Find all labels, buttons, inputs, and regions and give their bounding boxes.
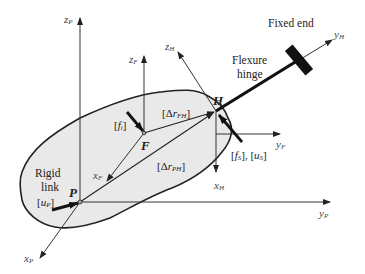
xF-label: xF bbox=[93, 170, 102, 182]
zP-label: zP bbox=[64, 14, 73, 26]
fixed-end-label: Fixed end bbox=[268, 18, 314, 30]
force-fi-label: [fi] bbox=[114, 120, 126, 132]
xH-label: xH bbox=[214, 180, 224, 192]
point-P-marker bbox=[78, 200, 82, 204]
rigid-label-line2: link bbox=[41, 182, 59, 194]
fixed-end-block bbox=[285, 45, 313, 76]
zF-label: zF bbox=[129, 54, 138, 66]
flexure-label-line1: Flexure bbox=[232, 55, 267, 67]
delta-r-PH-label: [ΔrPH] bbox=[157, 161, 185, 173]
diagram-canvas: zP yP xP zF yF xF zH yH xH P F H Fixed e… bbox=[0, 0, 365, 274]
point-F-marker bbox=[142, 131, 146, 135]
yF-label: yF bbox=[276, 139, 285, 151]
displacement-uP-label: [uP] bbox=[37, 197, 54, 209]
zH-label: zH bbox=[165, 41, 174, 53]
flexure-hinge bbox=[216, 59, 300, 111]
point-H-label: H bbox=[213, 94, 223, 107]
yP-label: yP bbox=[319, 208, 328, 220]
point-P-label: P bbox=[69, 186, 77, 199]
xP-label: xP bbox=[24, 253, 33, 265]
rigid-label-line1: Rigid bbox=[35, 168, 61, 180]
flexure-label-line2: hinge bbox=[237, 69, 263, 81]
diagram-graphics bbox=[0, 0, 365, 274]
force-fs-us-label: [fS], [uS] bbox=[231, 150, 267, 162]
delta-r-FH-label: [ΔrFH] bbox=[162, 108, 190, 120]
point-F-label: F bbox=[141, 139, 150, 152]
yH-label: yH bbox=[334, 29, 344, 41]
